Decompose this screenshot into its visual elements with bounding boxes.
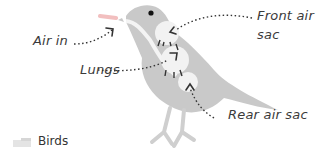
lungs-shape (161, 46, 189, 74)
label-front-air-sac-line2: sac (257, 27, 280, 42)
label-lungs: Lungs (80, 62, 120, 77)
label-rear-air-sac: Rear air sac (228, 107, 308, 122)
caption-birds: Birds (38, 134, 68, 148)
bird-illustration (118, 5, 278, 146)
birds-caption-icon (13, 138, 31, 147)
bird-eye (148, 10, 153, 15)
air-flow-indicator (100, 16, 116, 18)
label-air-in: Air in (33, 33, 68, 48)
label-front-air-sac: Front air (257, 8, 314, 23)
